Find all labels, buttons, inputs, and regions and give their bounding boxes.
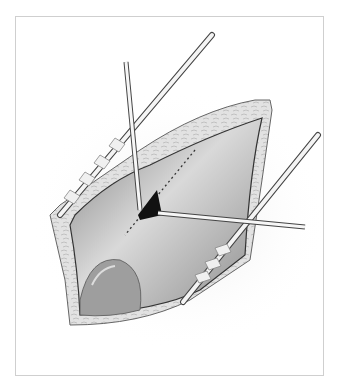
surgical-illustration — [0, 0, 337, 389]
